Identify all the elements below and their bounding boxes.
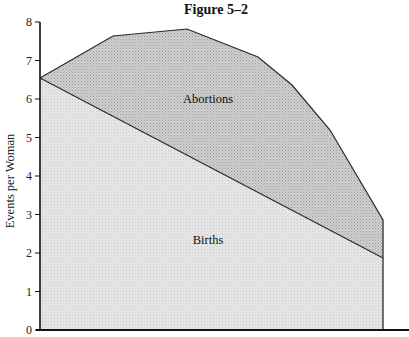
y-tick-5: 5 <box>26 131 32 145</box>
y-tick-6: 6 <box>26 92 32 106</box>
y-tick-3: 3 <box>26 208 32 222</box>
births-label: Births <box>193 233 224 247</box>
y-tick-2: 2 <box>26 246 32 260</box>
abortions-label: Abortions <box>183 92 233 106</box>
y-axis-label: Events per Woman <box>3 133 17 228</box>
y-tick-4: 4 <box>26 169 32 183</box>
y-tick-0: 0 <box>26 323 32 337</box>
y-tick-labels: 0 1 2 3 4 5 6 7 8 <box>26 15 32 337</box>
area-chart: Figure 5–2 0 1 2 3 4 5 6 7 8 Events per … <box>0 0 409 337</box>
chart-title: Figure 5–2 <box>184 2 248 17</box>
y-tick-8: 8 <box>26 15 32 29</box>
y-tick-7: 7 <box>26 54 32 68</box>
y-tick-1: 1 <box>26 285 32 299</box>
